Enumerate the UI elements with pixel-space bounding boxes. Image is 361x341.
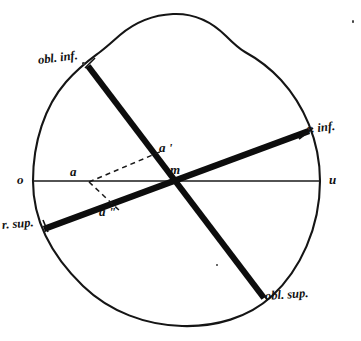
label-r-sup: r. sup.: [1, 216, 34, 231]
point-label-m: m: [170, 163, 180, 176]
rectus-muscle-plane-line: [44, 131, 309, 229]
anatomical-diagram-figure: o u obl. inf. r. inf. r. sup. obl. sup. …: [0, 0, 361, 341]
point-label-a: a: [70, 165, 77, 178]
axis-label-o: o: [17, 173, 24, 186]
ink-speck-upper-left: [82, 62, 85, 65]
ink-speck-top-right: [352, 20, 354, 23]
axis-label-u: u: [329, 173, 336, 186]
point-label-a-prime: a ': [159, 141, 172, 154]
label-obl-sup: obl. sup.: [265, 287, 309, 302]
label-r-inf: r. inf.: [306, 120, 335, 135]
point-label-a-double-prime: a ": [99, 205, 116, 218]
construction-line-a-to-a-prime: [89, 151, 162, 182]
